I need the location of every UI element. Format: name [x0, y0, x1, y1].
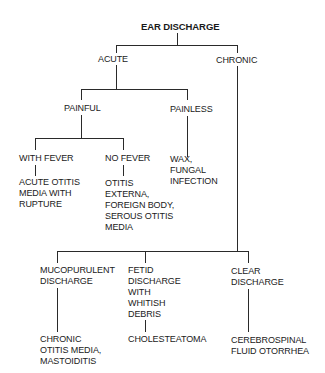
connector — [123, 165, 124, 176]
connector — [116, 65, 117, 89]
connector — [57, 251, 58, 263]
connector — [248, 251, 249, 263]
connector — [116, 45, 117, 53]
connector — [35, 138, 124, 139]
connector — [81, 115, 82, 138]
connector — [81, 89, 188, 90]
connector — [57, 288, 58, 332]
connector — [57, 251, 249, 252]
connector — [237, 66, 238, 251]
node-mucopurulent-discharge: MUCOPURULENT DISCHARGE — [40, 265, 115, 287]
node-otitis-externa: OTITIS EXTERNA, FOREIGN BODY, SEROUS OTI… — [105, 178, 174, 233]
node-painless: PAINLESS — [170, 104, 213, 115]
connector — [145, 320, 146, 332]
node-no-fever: NO FEVER — [105, 153, 150, 164]
node-with-fever: WITH FEVER — [19, 153, 74, 164]
connector — [187, 116, 188, 157]
connector — [81, 89, 82, 100]
connector — [35, 138, 36, 150]
node-chronic-otitis-media: CHRONIC OTITIS MEDIA, MASTOIDITIS — [40, 334, 101, 367]
node-painful: PAINFUL — [64, 103, 101, 114]
connector — [116, 45, 238, 46]
connector — [177, 33, 178, 45]
connector — [248, 289, 249, 332]
node-acute: ACUTE — [98, 54, 128, 65]
node-csf-otorrhea: CEREBROSPINAL FLUID OTORRHEA — [231, 335, 309, 357]
connector — [123, 138, 124, 150]
node-clear-discharge: CLEAR DISCHARGE — [231, 266, 284, 288]
node-cholesteatoma: CHOLESTEATOMA — [128, 334, 206, 345]
node-acute-otitis-media: ACUTE OTITIS MEDIA WITH RUPTURE — [19, 177, 80, 210]
connector — [35, 165, 36, 176]
connector — [187, 89, 188, 100]
node-wax-fungal-infection: WAX, FUNGAL INFECTION — [170, 154, 218, 187]
root-node-ear-discharge: EAR DISCHARGE — [141, 21, 219, 32]
connector — [145, 251, 146, 263]
connector — [237, 45, 238, 53]
node-chronic: CHRONIC — [216, 55, 257, 66]
node-fetid-discharge: FETID DISCHARGE WITH WHITISH DEBRIS — [128, 265, 181, 320]
